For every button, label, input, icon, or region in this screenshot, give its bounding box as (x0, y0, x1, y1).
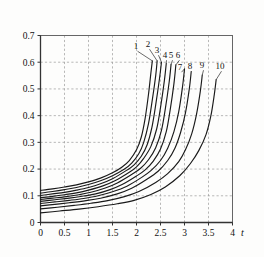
y-tick-label: 0.2 (23, 164, 35, 174)
curve-label-3: 3 (155, 45, 160, 55)
curve-label-4: 4 (163, 50, 168, 60)
y-tick-label: 0.5 (23, 84, 35, 94)
x-tick-label: 2.5 (155, 228, 167, 238)
x-tick-label: 1.5 (107, 228, 119, 238)
curve-label-8: 8 (188, 61, 193, 71)
y-tick-label: 0 (30, 218, 35, 228)
y-tick-label: 0.7 (23, 31, 35, 41)
y-tick-label: 0.4 (23, 111, 35, 121)
x-tick-label: 4 (230, 228, 235, 238)
x-axis-variable: t (241, 227, 244, 238)
plot-area: 00.511.522.533.5400.10.20.30.40.50.60.7 … (0, 0, 264, 257)
y-tick-label: 0.3 (23, 138, 35, 148)
y-tick-label: 0.1 (23, 191, 35, 201)
chart-figure: q (R°) 00.511.522.533.5400.10.20.30.40.5… (0, 0, 264, 257)
curve-label-5: 5 (169, 50, 174, 60)
x-axis-title: t (241, 227, 244, 238)
x-tick-label: 2 (134, 228, 139, 238)
curve-label-10: 10 (216, 61, 226, 71)
curve-label-1: 1 (134, 41, 139, 51)
x-tick-label: 1 (86, 228, 91, 238)
y-tick-label: 0.6 (23, 58, 35, 68)
curve-label-6: 6 (176, 50, 181, 60)
x-tick-label: 3.5 (203, 228, 215, 238)
chart-background (0, 0, 264, 257)
x-tick-label: 0.5 (59, 228, 71, 238)
x-tick-label: 0 (38, 228, 43, 238)
x-tick-label: 3 (182, 228, 187, 238)
curve-label-2: 2 (146, 39, 151, 49)
curve-label-7: 7 (178, 62, 183, 72)
curve-label-9: 9 (200, 60, 205, 70)
